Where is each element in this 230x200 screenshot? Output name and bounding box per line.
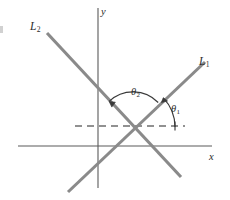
label-line-L1-subscript: 1 xyxy=(205,60,209,69)
label-angle-theta1: θ1 xyxy=(171,104,180,116)
label-axis-y: y xyxy=(101,7,106,18)
label-angle-theta1-subscript: 1 xyxy=(176,108,180,115)
label-line-L1: L1 xyxy=(199,56,210,69)
label-angle-theta2: θ2 xyxy=(131,87,140,99)
label-line-L2-subscript: 2 xyxy=(36,25,40,34)
label-line-L2: L2 xyxy=(30,21,41,34)
page-edge-artifact xyxy=(0,26,3,33)
label-angle-theta2-subscript: 2 xyxy=(136,91,140,98)
label-axis-x: x xyxy=(209,152,214,163)
geometry-figure: L2 L1 y x θ2 θ1 xyxy=(0,0,230,200)
